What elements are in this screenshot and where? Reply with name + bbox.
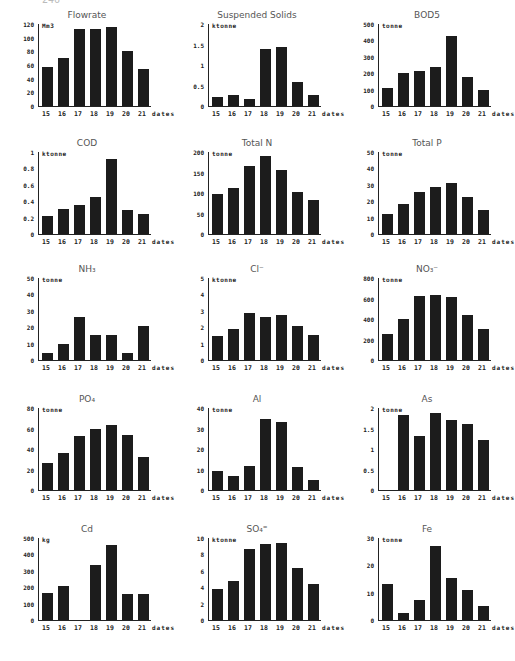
y-tick-label: 10 <box>27 340 34 347</box>
x-tick-label: 17 <box>410 238 426 246</box>
plot-area <box>378 278 491 361</box>
y-tick-label: 150 <box>193 169 204 176</box>
y-tick-label: 80 <box>27 48 34 55</box>
x-tick-label: 20 <box>458 110 474 118</box>
bar <box>122 210 133 234</box>
x-tick-label: 17 <box>240 624 256 632</box>
x-tick-label: 20 <box>288 494 304 502</box>
bar <box>58 58 69 106</box>
y-tick-label: 400 <box>23 551 34 558</box>
x-tick-label: 19 <box>272 624 288 632</box>
bar-chart: NH₃tonne0102030405015161718192021dates <box>2 264 172 386</box>
bar <box>276 315 287 360</box>
bar <box>228 581 239 620</box>
y-tick-label: 1.5 <box>193 41 204 48</box>
bar <box>58 209 69 234</box>
x-tick-label: 15 <box>378 624 394 632</box>
bar-chart: Altonne01020304015161718192021dates <box>172 394 342 516</box>
x-tick-label: 16 <box>54 238 70 246</box>
y-tick-label: 40 <box>27 75 34 82</box>
y-tick-label: 20 <box>27 324 34 331</box>
bar <box>462 315 473 360</box>
x-tick-label: 16 <box>394 238 410 246</box>
bar <box>414 71 425 106</box>
y-tick-label: 20 <box>27 466 34 473</box>
bar <box>74 436 85 490</box>
y-tick-label: 40 <box>367 165 374 172</box>
y-tick-label: 10 <box>367 214 374 221</box>
bar <box>106 425 117 490</box>
x-tick-label: 19 <box>102 624 118 632</box>
bar <box>276 170 287 234</box>
x-tick-label: 15 <box>208 238 224 246</box>
bar <box>58 453 69 490</box>
bar <box>446 183 457 234</box>
bar <box>276 47 287 106</box>
chart-title: Cl⁻ <box>172 264 342 274</box>
x-tick-label: 19 <box>272 238 288 246</box>
bar <box>138 457 149 490</box>
bar <box>462 424 473 490</box>
plot-area <box>208 408 321 491</box>
x-tick-label: 16 <box>54 364 70 372</box>
bar <box>414 296 425 360</box>
x-tick-label: 21 <box>134 364 150 372</box>
x-tick-label: 18 <box>86 624 102 632</box>
y-tick-label: 0.5 <box>193 82 204 89</box>
x-tick-label: 17 <box>70 624 86 632</box>
bar <box>42 67 53 106</box>
y-tick-label: 0 <box>200 357 204 364</box>
bar <box>260 419 271 490</box>
x-tick-label: 18 <box>426 238 442 246</box>
x-tick-label: 19 <box>442 238 458 246</box>
y-tick-label: 0.8 <box>23 165 34 172</box>
x-tick-label: 16 <box>54 110 70 118</box>
x-tick-label: 18 <box>426 110 442 118</box>
x-tick-label: 19 <box>102 494 118 502</box>
x-tick-label: 21 <box>474 110 490 118</box>
x-tick-label: 19 <box>102 110 118 118</box>
bar <box>446 36 457 106</box>
x-tick-label: 21 <box>134 494 150 502</box>
y-tick-label: 200 <box>193 149 204 156</box>
bar <box>382 584 393 620</box>
bar <box>260 544 271 620</box>
x-tick-label: 21 <box>304 238 320 246</box>
y-tick-label: 0.4 <box>23 198 34 205</box>
y-tick-label: 20 <box>367 198 374 205</box>
x-tick-label: 21 <box>134 624 150 632</box>
y-tick-label: 0.6 <box>23 181 34 188</box>
y-tick-label: 30 <box>197 425 204 432</box>
bar <box>228 329 239 360</box>
bar <box>42 216 53 234</box>
bar <box>122 594 133 620</box>
bar <box>398 319 409 360</box>
x-tick-label: 19 <box>102 364 118 372</box>
y-tick-label: 4 <box>200 291 204 298</box>
plot-area <box>38 278 151 361</box>
x-tick-label: 20 <box>118 624 134 632</box>
x-tick-label: 17 <box>240 110 256 118</box>
x-tick-label: 15 <box>378 238 394 246</box>
bar <box>478 440 489 490</box>
bar <box>430 546 441 620</box>
x-tick-label: 18 <box>426 364 442 372</box>
chart-title: Flowrate <box>2 10 172 20</box>
bar <box>138 214 149 235</box>
bar <box>244 313 255 360</box>
y-tick-label: 800 <box>363 275 374 282</box>
bar <box>414 600 425 621</box>
y-tick-label: 60 <box>27 62 34 69</box>
bar <box>228 95 239 106</box>
bar <box>430 187 441 234</box>
bar <box>138 594 149 620</box>
x-tick-label: 20 <box>458 624 474 632</box>
x-tick-label: 15 <box>38 110 54 118</box>
bar <box>308 95 319 106</box>
y-tick-label: 20 <box>27 89 34 96</box>
bar <box>106 335 117 360</box>
bar <box>106 27 117 106</box>
x-tick-label: 18 <box>256 364 272 372</box>
y-tick-label: 300 <box>363 53 374 60</box>
